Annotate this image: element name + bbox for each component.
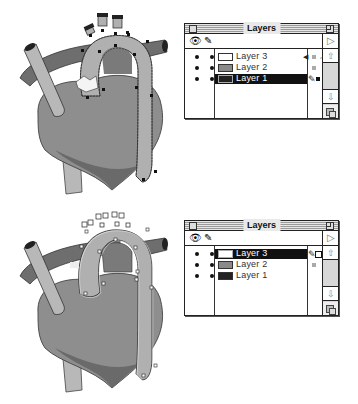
column-header-row: 👁 ✎ [185,231,322,246]
layer-name: Layer 1 [236,73,267,84]
layer-row-layer-3[interactable]: Layer 3 ✎ [185,249,322,259]
selection-square[interactable] [316,77,320,81]
layer-name: Layer 3 [236,248,267,259]
visibility-dot[interactable] [195,66,199,70]
layer-row-layer-1[interactable]: Layer 1 ✎ [185,74,322,84]
layer-color-swatch [218,75,233,83]
layer-color-swatch [218,261,233,269]
visibility-dot[interactable] [195,55,199,59]
selection-square[interactable] [312,55,316,59]
zoom-box-icon[interactable] [326,25,334,33]
speaker-icon: ◀ [303,52,308,62]
column-header-row: 👁 ✎ [185,34,322,49]
selection-square[interactable] [312,263,316,267]
close-box-icon[interactable] [189,25,197,33]
arrow-up-icon: ⇧ [327,248,335,258]
heart-illustration-top [0,0,184,200]
layer-name-cell[interactable]: Layer 3 [215,52,307,62]
layer-color-swatch [218,53,233,61]
layer-name-cell[interactable]: Layer 1 [215,271,307,281]
layers-panel-top: Layers 👁 ✎ ▷ Layer 3 ◀ Layer 2 [184,23,339,119]
layer-name: Layer 2 [236,259,267,270]
selection-square[interactable] [312,66,316,70]
layer-color-swatch [218,64,233,72]
layer-row-layer-2[interactable]: Layer 2 [185,63,322,73]
layer-name: Layer 2 [236,62,267,73]
edit-dot[interactable] [210,274,214,278]
heart-illustration-bottom [0,198,184,398]
layer-name: Layer 1 [236,270,267,281]
eye-icon: 👁 [189,36,202,46]
vertical-scrollbar[interactable]: ⇧ ⇩ [322,49,338,118]
zoom-box-icon[interactable] [326,222,334,230]
edit-dot[interactable] [210,55,214,59]
triangle-right-icon: ▷ [327,233,335,243]
scroll-up-button[interactable]: ⇧ [323,246,338,260]
layer-name-cell[interactable]: Layer 3 [215,249,307,259]
layer-name-cell[interactable]: Layer 2 [215,63,307,73]
edit-dot[interactable] [210,66,214,70]
layer-color-swatch [218,250,233,258]
arrow-down-icon: ⇩ [327,289,335,299]
layer-name-cell[interactable]: Layer 1 [215,74,307,84]
arrow-up-icon: ⇧ [327,51,335,61]
layer-row-layer-1[interactable]: Layer 1 [185,271,322,281]
panel-title: Layers [243,22,280,34]
layer-row-layer-3[interactable]: Layer 3 ◀ [185,52,322,62]
edit-dot[interactable] [210,263,214,267]
eye-icon: 👁 [189,233,202,243]
resize-grow-box[interactable] [323,105,338,118]
panel-title-bar[interactable]: Layers [185,221,338,231]
panel-menu-button[interactable]: ▷ [322,231,338,246]
scroll-down-button[interactable]: ⇩ [323,286,338,301]
visibility-dot[interactable] [195,77,199,81]
close-box-icon[interactable] [189,222,197,230]
layers-list: Layer 3 ◀ Layer 2 Layer 1 ✎ ☜ [185,49,322,118]
edit-dot[interactable] [210,77,214,81]
edit-dot[interactable] [210,252,214,256]
panel-title: Layers [243,219,280,231]
pencil-icon: ✎ [204,35,212,46]
scroll-up-button[interactable]: ⇧ [323,49,338,63]
pencil-icon: ✎ [308,74,316,84]
scroll-down-button[interactable]: ⇩ [323,89,338,104]
layer-color-swatch [218,272,233,280]
panel-title-bar[interactable]: Layers [185,24,338,34]
layer-name-cell[interactable]: Layer 2 [215,260,307,270]
selection-square[interactable] [315,251,322,258]
visibility-dot[interactable] [195,274,199,278]
pencil-icon: ✎ [204,232,212,243]
panel-menu-button[interactable]: ▷ [322,34,338,49]
layers-panel-bottom: Layers 👁 ✎ ▷ Layer 3 ✎ Layer 2 [184,220,339,316]
visibility-dot[interactable] [195,252,199,256]
visibility-dot[interactable] [195,263,199,267]
resize-grow-box[interactable] [323,302,338,315]
layer-name: Layer 3 [236,51,267,62]
arrow-down-icon: ⇩ [327,92,335,102]
vertical-scrollbar[interactable]: ⇧ ⇩ [322,246,338,315]
layer-row-layer-2[interactable]: Layer 2 [185,260,322,270]
triangle-right-icon: ▷ [327,36,335,46]
layers-list: Layer 3 ✎ Layer 2 Layer 1 [185,246,322,315]
